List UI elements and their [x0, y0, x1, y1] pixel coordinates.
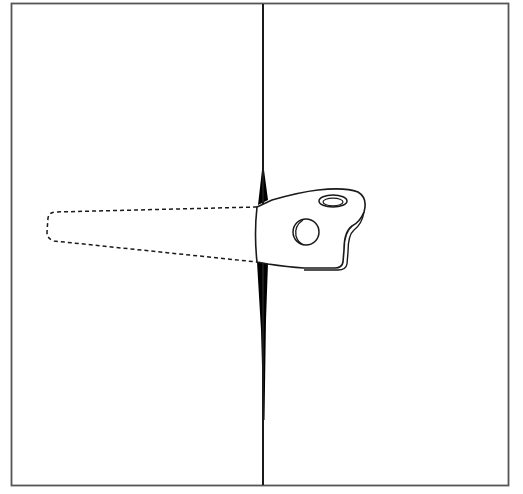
bracket-hidden-portion	[47, 207, 257, 262]
technical-drawing	[0, 0, 523, 494]
mounting-hole-side	[293, 219, 319, 245]
wall-panel-left	[12, 4, 263, 485]
